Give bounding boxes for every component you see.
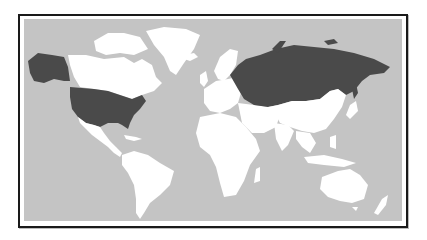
world-map-svg xyxy=(24,19,402,221)
region-alaska[interactable] xyxy=(28,53,70,83)
map-frame xyxy=(18,14,408,228)
world-map xyxy=(24,19,402,221)
region-philippines[interactable] xyxy=(330,135,336,149)
